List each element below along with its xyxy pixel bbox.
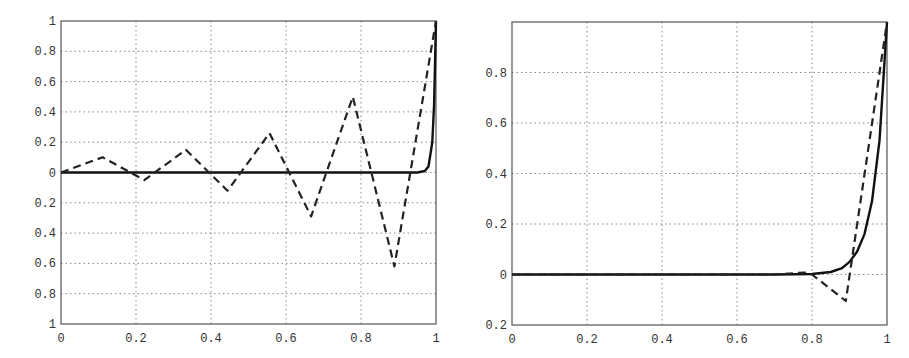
- y-tick-label: 0: [49, 167, 56, 181]
- x-axis-ticks: 00.20.40.60.81: [508, 333, 890, 347]
- x-tick-label: 0.6: [726, 333, 748, 347]
- x-tick-label: 0.4: [200, 332, 222, 346]
- y-tick-label: 0.8: [34, 45, 56, 59]
- y-tick-label: 0.6: [34, 257, 56, 271]
- axes-frame: [512, 22, 887, 325]
- y-tick-label: 0.2: [485, 319, 507, 333]
- x-tick-label: 0.6: [275, 332, 297, 346]
- x-tick-label: 0: [57, 332, 64, 346]
- dashed-line-series: [61, 21, 436, 266]
- y-tick-label: 0.2: [485, 218, 507, 232]
- y-tick-label: 0.6: [34, 76, 56, 90]
- x-tick-label: 0.4: [651, 333, 673, 347]
- figure: 00.20.40.60.8110.80.60.40.200.20.40.60.8…: [0, 0, 909, 358]
- x-tick-label: 1: [432, 332, 439, 346]
- y-tick-label: 0.2: [34, 136, 56, 150]
- y-tick-label: 0.6: [485, 117, 507, 131]
- grid: [512, 22, 887, 325]
- right-plot: 00.20.40.60.810.80.60.40.200.2: [485, 22, 890, 347]
- left-plot: 00.20.40.60.8110.80.60.40.200.20.40.60.8…: [34, 15, 439, 346]
- x-tick-label: 0.2: [125, 332, 147, 346]
- solid-line-series: [61, 21, 436, 173]
- y-tick-label: 0.4: [34, 106, 56, 120]
- y-tick-label: 0.8: [34, 288, 56, 302]
- y-axis-ticks: 10.80.60.40.200.20.40.60.81: [34, 15, 56, 332]
- x-tick-label: 0.2: [576, 333, 598, 347]
- y-tick-label: 1: [49, 15, 56, 29]
- y-tick-label: 0.8: [485, 67, 507, 81]
- x-tick-label: 0: [508, 333, 515, 347]
- x-axis-ticks: 00.20.40.60.81: [57, 332, 439, 346]
- dashed-line-series: [512, 22, 887, 301]
- y-tick-label: 1: [49, 318, 56, 332]
- x-tick-label: 1: [883, 333, 890, 347]
- y-tick-label: 0.4: [34, 227, 56, 241]
- solid-line-series: [512, 22, 887, 275]
- y-tick-label: 0.4: [485, 168, 507, 182]
- y-axis-ticks: 0.80.60.40.200.2: [485, 67, 507, 334]
- x-tick-label: 0.8: [801, 333, 823, 347]
- x-tick-label: 0.8: [350, 332, 372, 346]
- y-tick-label: 0.2: [34, 197, 56, 211]
- y-tick-label: 0: [500, 269, 507, 283]
